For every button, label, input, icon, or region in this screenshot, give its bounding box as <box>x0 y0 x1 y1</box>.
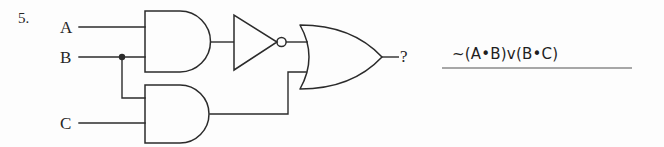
wire-and-bottom-to-or <box>210 72 306 114</box>
logic-circuit-diagram <box>0 0 664 147</box>
not-gate-triangle <box>234 15 277 70</box>
answer-expression: ~(A•B)v(B•C) <box>452 47 558 62</box>
input-label-c: C <box>60 115 71 132</box>
and-gate-top <box>145 11 210 72</box>
junction-dot-b <box>119 54 125 60</box>
wire-b-branch <box>122 57 145 98</box>
worksheet-page: 5. A B C ? ~(A•B)v(B•C) <box>0 0 664 147</box>
or-gate <box>300 25 382 89</box>
and-gate-bottom <box>145 85 209 143</box>
problem-number: 5. <box>18 11 29 26</box>
input-label-a: A <box>60 19 72 36</box>
output-label: ? <box>400 48 408 65</box>
input-label-b: B <box>60 49 71 66</box>
